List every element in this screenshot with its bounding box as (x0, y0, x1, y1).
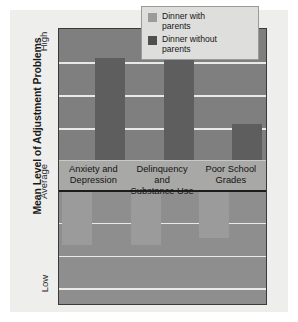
category-label: Anxiety and Depression (59, 164, 128, 186)
legend-item-dinner-with-parents: Dinner with parents (148, 12, 253, 31)
bar-dinner-with-parents (199, 190, 229, 238)
legend-swatch-dark-icon (148, 36, 157, 45)
gridline (59, 288, 266, 290)
gridline (59, 62, 266, 64)
plot-inner: Anxiety and DepressionDelinquency and Su… (59, 29, 266, 304)
bar-dinner-with-parents (131, 190, 161, 245)
chart-legend: Dinner with parents Dinner without paren… (141, 6, 259, 60)
legend-item-dinner-without-parents: Dinner without parents (148, 35, 253, 54)
bar-dinner-with-parents (62, 190, 92, 245)
plot-area: Anxiety and DepressionDelinquency and Su… (58, 28, 267, 305)
y-tick-average: Average (38, 154, 49, 210)
chart-figure: Mean Level of Adjustment Problems High A… (0, 0, 298, 322)
average-baseline (59, 190, 266, 192)
y-tick-high: High (38, 20, 49, 64)
gridline (59, 256, 266, 258)
legend-swatch-light-icon (148, 13, 157, 22)
legend-label: Dinner without parents (162, 35, 217, 54)
gridline (59, 95, 266, 97)
legend-label: Dinner with parents (162, 12, 205, 31)
y-tick-low: Low (39, 262, 50, 306)
category-label: Poor School Grades (196, 164, 265, 186)
category-label: Delinquency and Substance Use (128, 164, 197, 197)
